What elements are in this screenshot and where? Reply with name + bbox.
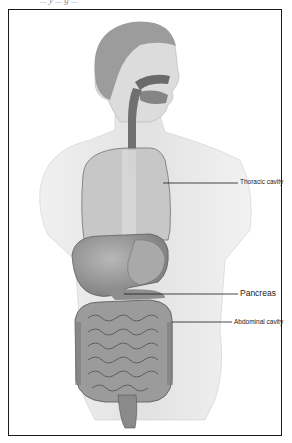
label-abdominal-cavity: Abdominal cavity xyxy=(234,318,283,325)
label-thoracic-cavity: Thoracic cavity xyxy=(240,178,283,185)
thoracic-cavity xyxy=(82,148,171,240)
anatomy-illustration xyxy=(0,0,292,443)
label-pancreas: Pancreas xyxy=(240,288,276,298)
